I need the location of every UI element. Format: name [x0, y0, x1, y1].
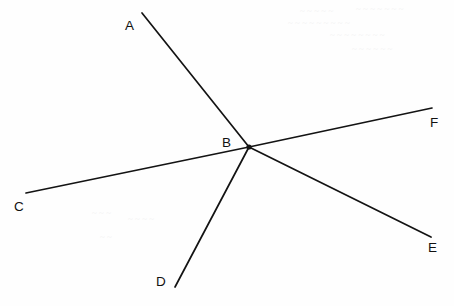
ray-be	[249, 147, 431, 237]
ray-ba	[142, 13, 249, 147]
point-label-a: A	[125, 18, 134, 33]
vertex-dot-b	[246, 144, 251, 149]
ray-bd	[175, 147, 249, 287]
geometry-figure: ~ ~ ~ ~ ~~ ~ ~ ~ ~ ~ ~~ ~ ~ ~ ~ ~ ~ ~ ~~…	[0, 0, 454, 306]
ray-bc	[26, 147, 249, 193]
ray-group	[26, 13, 432, 287]
ray-bf	[249, 108, 432, 147]
point-label-c: C	[14, 199, 24, 214]
point-label-e: E	[428, 240, 437, 255]
label-group: ACDEFB	[14, 18, 438, 289]
point-label-f: F	[430, 115, 438, 130]
figure-canvas: ACDEFB	[0, 0, 454, 306]
point-label-d: D	[156, 274, 166, 289]
vertex-group	[246, 144, 251, 149]
point-label-b: B	[222, 135, 231, 150]
